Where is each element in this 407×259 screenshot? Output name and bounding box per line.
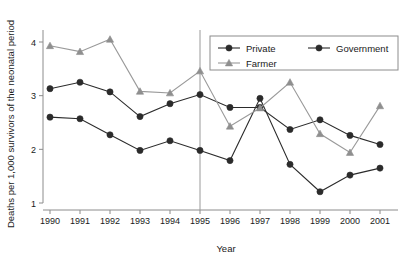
y-axis-tick-label: 3 [31,91,36,101]
data-point [376,102,383,108]
data-point [347,172,353,178]
x-axis-tick-label: 1991 [70,216,90,226]
x-axis-tick-label: 2001 [370,216,390,226]
x-axis-tick-label: 1993 [130,216,150,226]
series-line [50,98,380,191]
data-point [317,117,323,123]
data-point [346,149,353,155]
x-axis-title: Year [216,243,235,254]
data-point [197,147,203,153]
y-axis-title: Deaths per 1,000 survivors of the neonat… [5,20,16,228]
data-point [287,161,293,167]
data-point [167,138,173,144]
x-axis-tick-label: 1995 [190,216,210,226]
data-point [227,158,233,164]
x-axis-tick-label: 1994 [160,216,180,226]
series-line [50,82,380,144]
data-point [77,116,83,122]
x-axis-tick-label: 1998 [280,216,300,226]
data-point [227,104,233,110]
data-point [317,189,323,195]
data-point [377,141,383,147]
data-point [167,101,173,107]
data-point [137,113,143,119]
x-axis-tick-label: 1996 [220,216,240,226]
data-point [377,165,383,171]
data-point [197,91,203,97]
y-axis-tick-label: 1 [31,199,36,209]
data-point [107,132,113,138]
legend-label: Farmer [246,58,277,69]
data-point [46,42,53,48]
data-point [286,79,293,85]
y-axis-tick-label: 4 [31,38,36,48]
data-point [47,114,53,120]
chart-canvas: 1234 19901991199219931994199519961997199… [0,0,407,259]
data-point [47,86,53,92]
x-axis-tick-label: 1992 [100,216,120,226]
legend-label: Private [246,43,276,54]
data-point [316,130,323,136]
data-point [226,123,233,129]
data-point [287,126,293,132]
data-point [347,132,353,138]
data-point [106,36,113,42]
x-axis-tick-label: 1997 [250,216,270,226]
x-axis: 1990199119921993199419951996199719981999… [40,210,398,226]
data-point [107,89,113,95]
data-point [257,95,263,101]
series-private [47,79,383,147]
data-point [316,45,322,51]
data-point [226,45,232,51]
data-point [77,79,83,85]
x-axis-tick-label: 1999 [310,216,330,226]
series-government [47,95,383,195]
x-axis-tick-label: 1990 [40,216,60,226]
x-axis-tick-label: 2000 [340,216,360,226]
data-point [137,147,143,153]
line-chart: 1234 19901991199219931994199519961997199… [0,0,407,259]
y-axis: 1234 [31,30,43,209]
data-point [196,67,203,73]
legend-label: Government [336,43,389,54]
chart-legend: PrivateGovernmentFarmer [210,36,398,70]
y-axis-tick-label: 2 [31,145,36,155]
